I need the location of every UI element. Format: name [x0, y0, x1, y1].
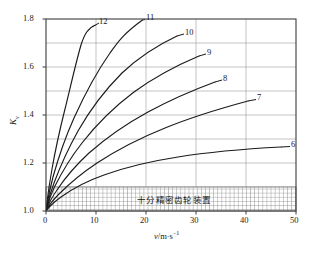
y-tick-label-3: 1.6: [23, 61, 34, 71]
curve-label-10: 10: [185, 27, 194, 37]
x-tick-label-0: 0: [43, 215, 47, 225]
curve-label-7: 7: [257, 92, 261, 102]
x-tick-label-4: 40: [240, 215, 249, 225]
x-tick-label-5: 50: [290, 215, 299, 225]
curve-label-11: 11: [146, 12, 154, 22]
y-axis-title: Kv: [8, 116, 20, 125]
curve-label-8: 8: [223, 73, 227, 83]
x-tick-label-2: 20: [140, 215, 149, 225]
kv-dynamic-factor-chart: [0, 0, 316, 255]
curve-label-12: 12: [99, 16, 108, 26]
x-tick-label-3: 30: [190, 215, 199, 225]
y-tick-label-0: 1.0: [23, 205, 34, 215]
y-tick-label-2: 1.4: [23, 109, 34, 119]
x-tick-label-1: 10: [90, 215, 99, 225]
curve-label-6: 6: [291, 139, 295, 149]
chart-background: [0, 0, 316, 255]
y-axis-title-main: K: [8, 119, 18, 125]
y-tick-label-4: 1.8: [23, 13, 34, 23]
curve-label-9: 9: [207, 47, 211, 57]
x-axis-title: v/m·s−1: [154, 230, 179, 241]
y-axis-title-sub: v: [13, 116, 20, 119]
precision-gear-zone-label: 十分精密齿轮装置: [137, 193, 211, 205]
x-axis-title-text: v/m·s−1: [154, 231, 179, 241]
y-tick-label-1: 1.2: [23, 157, 34, 167]
